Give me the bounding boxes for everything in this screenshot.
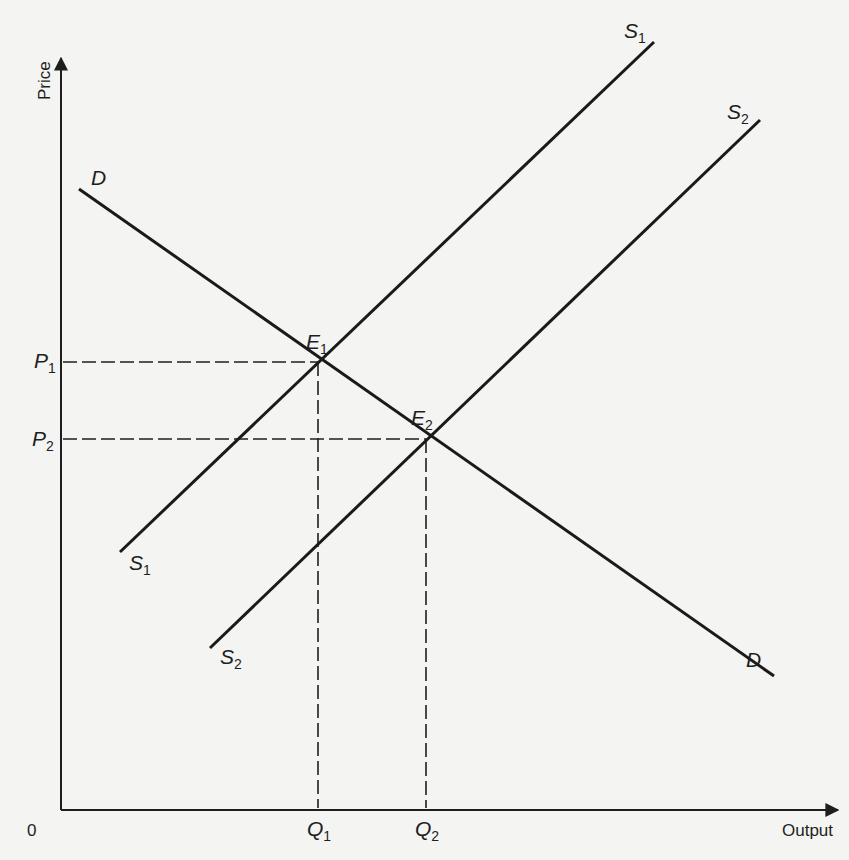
s1-label-top: S1 bbox=[624, 19, 646, 46]
q2-label: Q2 bbox=[415, 817, 439, 844]
guide-lines bbox=[63, 362, 426, 808]
x-axis-label: Output bbox=[782, 821, 833, 840]
e1-label: E1 bbox=[306, 330, 328, 357]
d-label-bottom: D bbox=[746, 648, 761, 671]
e2-label: E2 bbox=[411, 406, 433, 433]
s1-label-bottom: S1 bbox=[129, 551, 151, 578]
y-axis-label: Price bbox=[35, 61, 54, 100]
supply-curve-s2 bbox=[210, 120, 760, 648]
p1-label: P1 bbox=[34, 349, 56, 376]
p2-label: P2 bbox=[32, 427, 54, 454]
q1-label: Q1 bbox=[307, 817, 331, 844]
supply-demand-chart: Price Output 0 D D S1 S1 S2 S2 E1 E2 P1 … bbox=[0, 0, 849, 860]
d-label-top: D bbox=[91, 166, 106, 189]
s2-label-top: S2 bbox=[727, 100, 749, 127]
origin-label: 0 bbox=[27, 821, 36, 840]
s2-label-bottom: S2 bbox=[220, 645, 242, 672]
